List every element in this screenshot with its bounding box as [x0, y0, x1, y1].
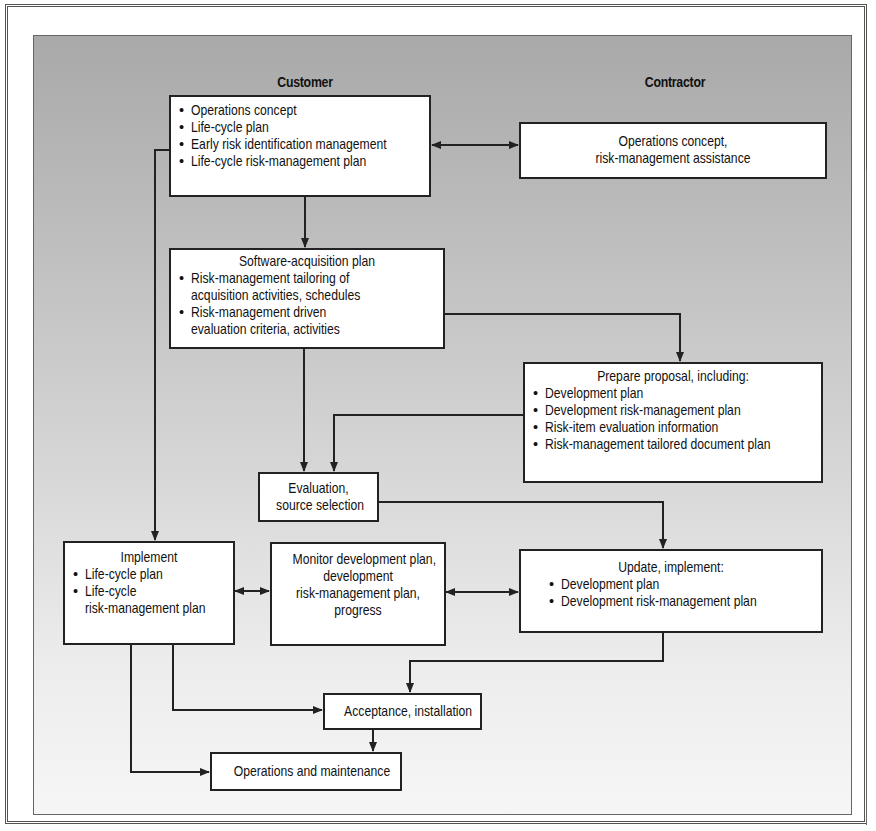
implement-box: Implement •Life-cycle plan •Life-cycleri…	[63, 541, 235, 645]
box-line: development	[292, 568, 423, 585]
arrow-implement-to-acceptance	[173, 644, 322, 710]
list-item: •Development risk-management plan	[549, 593, 813, 610]
bullet-icon: •	[179, 153, 184, 170]
bullet-icon: •	[179, 304, 184, 321]
list-item: •Risk-management tailored document plan	[533, 436, 813, 453]
evaluation-box: Evaluation, source selection	[258, 472, 379, 522]
bullet-icon: •	[549, 576, 554, 593]
box-title: Prepare proposal, including:	[555, 368, 790, 385]
box-line: progress	[292, 602, 423, 619]
list-item: •Operations concept	[179, 102, 421, 119]
bullet-icon: •	[533, 436, 538, 453]
arrow-proposal-to-evaluation	[334, 415, 523, 471]
monitor-box: Monitor development plan, development ri…	[270, 542, 446, 646]
bullet-icon: •	[533, 385, 538, 402]
bullet-icon: •	[179, 102, 184, 119]
list-item: •Risk-item evaluation information	[533, 419, 813, 436]
list-item: •Early risk identification management	[179, 136, 421, 153]
arrow-update-to-acceptance	[410, 632, 663, 692]
bullet-icon: •	[179, 136, 184, 153]
arrow-acquisition-to-proposal	[444, 314, 680, 361]
box-line: Operations concept,	[552, 133, 794, 150]
customer-initial-box: •Operations concept •Life-cycle plan •Ea…	[169, 95, 431, 197]
acceptance-box: Acceptance, installation	[323, 693, 482, 730]
list-item: •Life-cycle risk-management plan	[179, 153, 421, 170]
bullet-icon: •	[533, 402, 538, 419]
list-item: •Development plan	[549, 576, 813, 593]
list-item: •Development plan	[533, 385, 813, 402]
box-line: risk-management plan,	[292, 585, 423, 602]
proposal-box: Prepare proposal, including: •Developmen…	[523, 362, 823, 483]
heading-contractor: Contractor	[622, 73, 729, 90]
arrow-customer-to-implement	[155, 150, 169, 540]
list-item: •Development risk-management plan	[533, 402, 813, 419]
bullet-icon: •	[179, 119, 184, 136]
bullet-icon: •	[549, 593, 554, 610]
bullet-icon: •	[73, 583, 78, 600]
bullet-icon: •	[179, 270, 184, 287]
box-title: Software-acquisition plan	[199, 253, 414, 270]
box-title: Update, implement:	[552, 559, 791, 576]
bullet-icon: •	[533, 419, 538, 436]
operations-maintenance-box: Operations and maintenance	[210, 752, 402, 791]
bullet-icon: •	[73, 566, 78, 583]
box-title: Implement	[85, 549, 213, 566]
list-item: •Life-cycle plan	[179, 119, 421, 136]
list-item: •Life-cyclerisk-management plan	[73, 583, 225, 617]
arrow-implement-to-operations	[131, 644, 209, 772]
contractor-assist-box: Operations concept, risk-management assi…	[519, 122, 827, 179]
heading-customer: Customer	[260, 73, 350, 90]
list-item: •Life-cycle plan	[73, 566, 225, 583]
update-box: Update, implement: •Development plan •De…	[519, 549, 823, 633]
list-item: •Risk-management tailoring ofacquisition…	[179, 270, 435, 304]
box-line: Evaluation,	[276, 480, 361, 497]
acquisition-plan-box: Software-acquisition plan •Risk-manageme…	[169, 248, 445, 349]
box-line: Acceptance, installation	[344, 703, 461, 720]
list-item: •Risk-management drivenevaluation criter…	[179, 304, 435, 338]
box-line: risk-management assistance	[552, 150, 794, 167]
box-line: Monitor development plan,	[292, 551, 423, 568]
box-line: source selection	[276, 497, 361, 514]
box-line: Operations and maintenance	[234, 763, 378, 780]
